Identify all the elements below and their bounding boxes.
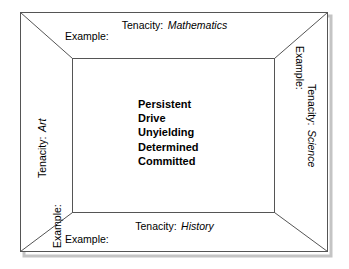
panel-right-subject: Science	[306, 130, 318, 167]
panel-top-subject: Mathematics	[168, 19, 228, 31]
panel-left-concept-label: Tenacity:	[36, 137, 48, 178]
panel-top-concept: Tenacity: Mathematics	[0, 15, 349, 33]
panel-right-example-label[interactable]: Example:	[293, 46, 305, 90]
panel-right-concept: Tenacity: Science	[304, 84, 322, 167]
center-word: Drive	[138, 111, 199, 125]
center-concept-word-list: Persistent Drive Unyielding Determined C…	[138, 97, 199, 168]
panel-left-concept: Tenacity: Art	[32, 119, 50, 178]
panel-left-subject: Art	[36, 119, 48, 132]
panel-bottom-example-label[interactable]: Example:	[65, 234, 109, 246]
center-word: Committed	[138, 154, 199, 168]
panel-top-example-label[interactable]: Example:	[65, 31, 109, 43]
panel-bottom-subject: History	[181, 220, 214, 232]
panel-left-example-label[interactable]: Example:	[52, 204, 64, 248]
diagram-canvas: Tenacity: Mathematics Example: Tenacity:…	[0, 0, 349, 269]
center-word: Determined	[138, 140, 199, 154]
panel-top-concept-label: Tenacity:	[122, 19, 163, 31]
panel-right-concept-label: Tenacity:	[306, 84, 318, 125]
center-word: Unyielding	[138, 125, 199, 139]
center-word: Persistent	[138, 97, 199, 111]
panel-bottom-concept-label: Tenacity:	[135, 220, 176, 232]
